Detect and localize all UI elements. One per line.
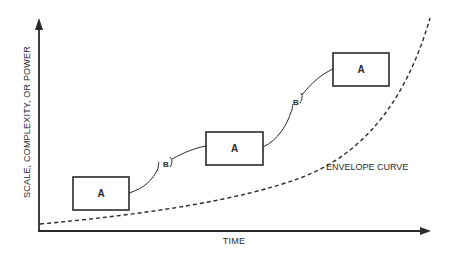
y-axis-label: SCALE, COMPLEXITY, OR POWER — [22, 46, 32, 198]
y-axis-arrow-icon — [35, 18, 43, 30]
x-axis-label: TIME — [223, 236, 245, 246]
transition-b-2: B — [263, 69, 333, 147]
box-a-2: A — [206, 132, 263, 165]
x-axis-arrow-icon — [420, 227, 431, 235]
box-a-2-label: A — [231, 143, 238, 154]
box-a-1: A — [73, 177, 129, 210]
box-a-1-label: A — [97, 188, 104, 199]
envelope-curve-label: ENVELOPE CURVE — [326, 162, 408, 172]
envelope-curve-diagram: A A A B B ENVELOPE CURVE TIME SCALE, COM… — [0, 0, 452, 261]
transition-b-2-label: B — [293, 98, 299, 107]
box-a-3-label: A — [357, 64, 364, 75]
transition-b-1: B — [129, 146, 206, 193]
box-a-3: A — [333, 53, 389, 86]
transition-b-1-label: B — [163, 160, 169, 169]
